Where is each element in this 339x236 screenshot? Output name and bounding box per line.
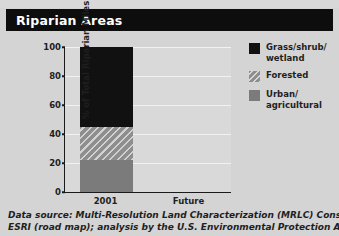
y-tick-label: 80	[49, 71, 61, 81]
y-axis-label: % of Total Riparian Miles	[81, 0, 91, 125]
top-margin-strip	[0, 0, 339, 8]
legend-item: Urban/agricultural	[249, 89, 337, 110]
legend-swatch-icon	[249, 71, 260, 82]
y-tick-label: 20	[49, 158, 61, 168]
chart-title-bar: Riparian Areas	[6, 9, 333, 31]
footnote-line-2: ESRI (road map); analysis by the U.S. En…	[8, 221, 336, 233]
figure-panel: Riparian Areas 020406080100 % of Total R…	[0, 0, 339, 236]
bar-segment	[80, 127, 133, 160]
legend-item: Forested	[249, 70, 337, 82]
chart-area: 020406080100 % of Total Riparian Miles 2…	[0, 33, 339, 208]
plot-area: 020406080100 % of Total Riparian Miles	[64, 47, 231, 193]
y-tick-mark	[62, 162, 65, 164]
legend-swatch-icon	[249, 43, 260, 54]
y-tick-label: 60	[49, 100, 61, 110]
legend-label: Grass/shrub/wetland	[266, 42, 327, 63]
legend-swatch-icon	[249, 90, 260, 101]
y-tick-mark	[62, 104, 65, 106]
footnote-line-1: Data source: Multi-Resolution Land Chara…	[8, 209, 336, 221]
y-tick-mark	[62, 75, 65, 77]
stacked-bar	[163, 47, 216, 192]
chart-legend: Grass/shrub/wetlandForestedUrban/agricul…	[249, 42, 337, 117]
x-tick-label: 2001	[94, 196, 118, 206]
footnote: Data source: Multi-Resolution Land Chara…	[8, 209, 336, 233]
y-tick-mark	[62, 133, 65, 135]
y-tick-label: 0	[55, 187, 61, 197]
legend-item: Grass/shrub/wetland	[249, 42, 337, 63]
legend-label: Urban/agricultural	[266, 89, 322, 110]
y-tick-label: 40	[49, 129, 61, 139]
y-tick-mark	[62, 46, 65, 48]
legend-label: Forested	[266, 70, 308, 81]
bar-segment	[80, 160, 133, 192]
page-title: Riparian Areas	[6, 13, 122, 28]
y-tick-label: 100	[43, 42, 61, 52]
y-tick-mark	[62, 191, 65, 193]
x-tick-label: Future	[173, 196, 205, 206]
